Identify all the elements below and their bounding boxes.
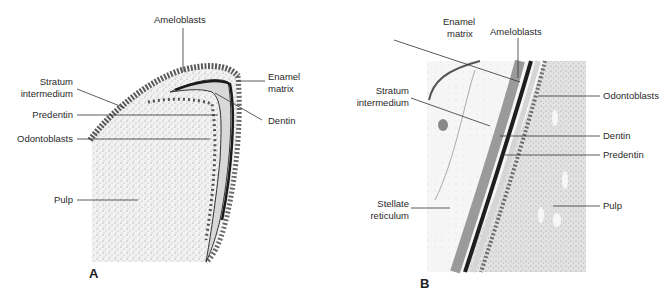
label-dentin: Dentin	[268, 115, 295, 127]
label-stellate-line2: reticulum	[370, 210, 409, 222]
panel-b: Enamel matrix Ameloblasts Stratum interm…	[335, 0, 671, 295]
label-stratum-line1: Stratum	[376, 85, 409, 97]
label-ameloblasts: Ameloblasts	[154, 14, 206, 26]
label-enamel-matrix-line2: matrix	[447, 28, 473, 40]
label-enamel-matrix-line1: Enamel	[268, 71, 300, 83]
label-odontoblasts: Odontoblasts	[17, 133, 73, 145]
tooth-bud-histology-b	[335, 0, 671, 295]
label-stratum-line2: intermedium	[21, 88, 73, 100]
label-stellate-line1: Stellate	[377, 198, 409, 210]
label-enamel-matrix-line1: Enamel	[443, 16, 475, 28]
label-stratum-line1: Stratum	[40, 76, 73, 88]
tooth-bud-histology-a	[0, 0, 335, 295]
panel-a: Ameloblasts Enamel matrix Stratum interm…	[0, 0, 335, 295]
label-predentin: Predentin	[603, 149, 644, 161]
label-pulp: Pulp	[54, 194, 73, 206]
label-enamel-matrix-line2: matrix	[268, 83, 294, 95]
panel-letter-b: B	[420, 276, 429, 291]
label-odontoblasts: Odontoblasts	[603, 90, 659, 102]
label-predentin: Predentin	[32, 109, 73, 121]
label-dentin: Dentin	[603, 130, 630, 142]
panel-letter-a: A	[89, 266, 98, 281]
label-stratum-line2: intermedium	[357, 97, 409, 109]
label-pulp: Pulp	[603, 200, 622, 212]
label-ameloblasts: Ameloblasts	[490, 26, 542, 38]
